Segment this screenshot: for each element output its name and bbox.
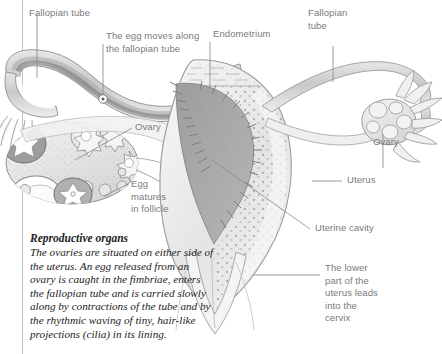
egg-in-follicle [71, 192, 75, 196]
egg-in-tube [99, 95, 108, 104]
label-endometrium: Endometrium [213, 28, 271, 41]
label-ovary-left: Ovary [135, 121, 161, 134]
label-ovary-right: Ovary [373, 136, 399, 149]
caption-block: Reproductive organs The ovaries are situ… [30, 231, 216, 341]
label-lower-part: The lower part of the uterus leads into … [325, 262, 378, 325]
label-egg-moves: The egg moves along the fallopian tube [106, 30, 199, 55]
label-fallopian-tube-right: Fallopian tube [308, 7, 347, 32]
label-uterus: Uterus [347, 174, 376, 187]
caption-body: The ovaries are situated on either side … [30, 246, 216, 341]
reproductive-organs-figure: Fallopian tube The egg moves along the f… [0, 0, 442, 354]
caption-title: Reproductive organs [30, 231, 216, 245]
label-egg-matures: Egg matures in follicle [131, 178, 169, 216]
label-uterine-cavity: Uterine cavity [315, 222, 374, 235]
label-fallopian-tube-left: Fallopian tube [29, 7, 90, 20]
